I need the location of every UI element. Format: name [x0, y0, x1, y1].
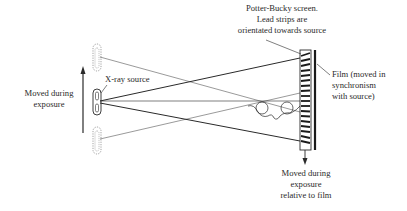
primary-rays	[100, 58, 300, 141]
bucky-line-3: orientated towards source	[222, 25, 342, 36]
grid-motion-label: Moved during exposure relative to film	[270, 168, 342, 201]
xray-source-upper-position	[93, 44, 101, 71]
grid-motion-arrow	[303, 150, 308, 165]
xray-source-lower-position	[93, 127, 101, 154]
bucky-label: Potter-Bucky screen. Lead strips are ori…	[222, 3, 342, 36]
film-label: Film (moved in synchronism with source)	[332, 69, 385, 102]
film-line-2: synchronism	[332, 80, 385, 91]
film-leader	[317, 64, 330, 75]
bucky-leader	[266, 40, 301, 54]
potter-bucky-grid	[300, 50, 311, 150]
xray-source-label: X-ray source	[105, 74, 150, 85]
xray-source-leader	[101, 85, 107, 93]
ghost-rays	[100, 57, 300, 139]
source-motion-label: Moved during exposure	[14, 88, 84, 110]
source-motion-line-1: Moved during	[14, 88, 84, 99]
bucky-line-1: Potter-Bucky screen.	[222, 3, 342, 14]
bucky-line-2: Lead strips are	[222, 14, 342, 25]
grid-motion-line-1: Moved during	[270, 168, 342, 179]
grid-motion-line-3: relative to film	[270, 190, 342, 201]
film-line-1: Film (moved in	[332, 69, 385, 80]
grid-motion-line-2: exposure	[270, 179, 342, 190]
film-line-3: with source)	[332, 91, 385, 102]
source-motion-line-2: exposure	[14, 99, 84, 110]
xray-source	[93, 89, 101, 115]
